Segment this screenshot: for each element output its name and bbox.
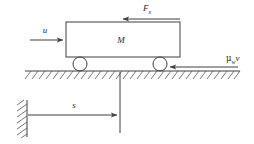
label-mass-M: M — [116, 35, 125, 45]
label-friction-muwv: μwv — [226, 53, 240, 65]
label-force-x: Fx — [142, 3, 152, 15]
label-input-u: u — [43, 25, 48, 35]
fixed-wall-hatched — [17, 100, 27, 138]
wheel-right — [153, 57, 167, 71]
wheel-left — [73, 57, 87, 71]
diagram-canvas: Fx M u μwv — [0, 0, 254, 144]
label-displacement-s: s — [72, 100, 76, 110]
mechanical-system-diagram: Fx M u μwv — [0, 0, 254, 144]
ground-line-hatched — [25, 71, 240, 79]
